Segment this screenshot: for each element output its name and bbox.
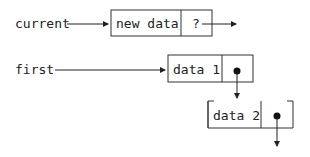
node-1-data: data 1 <box>173 62 220 77</box>
node-2: data 2 <box>208 101 293 146</box>
node-new-link: ? <box>192 16 200 31</box>
node-2-data: data 2 <box>213 108 260 123</box>
node-new-data: new data <box>116 16 179 31</box>
pointer-label-current: current <box>15 16 70 31</box>
pointer-label-first: first <box>15 62 54 77</box>
node-1: data 1 <box>168 55 253 98</box>
node-new: new data ? <box>111 10 236 36</box>
linked-list-diagram: current new data ? first data 1 data 2 <box>0 0 310 157</box>
